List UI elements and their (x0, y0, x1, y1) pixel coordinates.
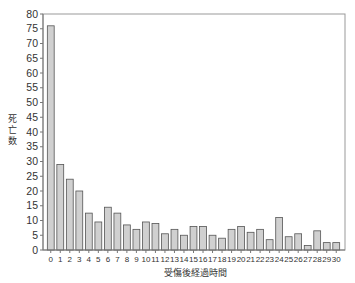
bar (257, 229, 264, 250)
bar (181, 235, 188, 250)
y-tick-label: 25 (26, 170, 38, 182)
y-tick-label: 75 (26, 22, 38, 34)
x-tick-label: 27 (303, 255, 312, 264)
x-tick-label: 12 (160, 255, 169, 264)
bar (57, 164, 64, 250)
y-tick-label: 15 (26, 199, 38, 211)
svg-text:数: 数 (8, 135, 17, 146)
bar (190, 226, 197, 250)
y-tick-label: 60 (26, 67, 38, 79)
y-tick-label: 80 (26, 8, 38, 20)
y-tick-label: 20 (26, 185, 38, 197)
x-tick-label: 30 (332, 255, 341, 264)
bar (209, 235, 216, 250)
x-tick-label: 19 (227, 255, 236, 264)
y-tick-label: 55 (26, 81, 38, 93)
x-tick-label: 21 (246, 255, 255, 264)
y-tick-label: 45 (26, 111, 38, 123)
svg-text:亡: 亡 (8, 124, 17, 135)
y-tick-label: 35 (26, 140, 38, 152)
x-tick-label: 7 (115, 255, 120, 264)
bar (171, 229, 178, 250)
bar (304, 246, 311, 250)
x-tick-label: 1 (58, 255, 63, 264)
x-tick-label: 14 (180, 255, 189, 264)
x-tick-label: 8 (125, 255, 130, 264)
bar (276, 218, 283, 250)
x-axis-title: 受傷後経過時間 (164, 267, 227, 278)
x-tick-label: 28 (313, 255, 322, 264)
bar (123, 225, 130, 250)
bar (200, 226, 207, 250)
x-tick-label: 17 (208, 255, 217, 264)
bar (314, 231, 321, 250)
bar (66, 179, 73, 250)
x-tick-label: 11 (151, 255, 160, 264)
x-tick-label: 4 (87, 255, 92, 264)
x-tick-label: 3 (77, 255, 82, 264)
x-tick-label: 20 (237, 255, 246, 264)
x-axis: 0123456789101112131415161718192021222324… (43, 250, 345, 264)
bar (285, 237, 292, 250)
x-tick-label: 25 (284, 255, 293, 264)
bar (95, 222, 102, 250)
bar (76, 191, 83, 250)
y-tick-label: 10 (26, 214, 38, 226)
bar (47, 26, 54, 250)
bar (323, 243, 330, 250)
x-tick-label: 15 (189, 255, 198, 264)
y-tick-label: 5 (32, 229, 38, 241)
bar-chart: 05101520253035404550556065707580 0123456… (0, 0, 355, 283)
bars (47, 26, 339, 250)
bar (333, 243, 340, 250)
bar (85, 213, 92, 250)
bar (152, 223, 159, 250)
y-tick-label: 70 (26, 37, 38, 49)
x-tick-label: 10 (141, 255, 150, 264)
bar (142, 222, 149, 250)
x-tick-label: 6 (106, 255, 111, 264)
x-tick-label: 0 (49, 255, 54, 264)
bar (133, 229, 140, 250)
x-tick-label: 5 (96, 255, 101, 264)
x-tick-label: 26 (294, 255, 303, 264)
y-axis: 05101520253035404550556065707580 (26, 8, 43, 256)
x-tick-label: 29 (322, 255, 331, 264)
x-tick-label: 24 (275, 255, 284, 264)
bar (295, 234, 302, 250)
y-tick-label: 0 (32, 244, 38, 256)
x-tick-label: 13 (170, 255, 179, 264)
x-tick-label: 22 (256, 255, 265, 264)
y-tick-label: 40 (26, 126, 38, 138)
bar (266, 240, 273, 250)
bar (238, 226, 245, 250)
bar (228, 229, 235, 250)
y-tick-label: 30 (26, 155, 38, 167)
x-tick-label: 23 (265, 255, 274, 264)
bar (104, 207, 111, 250)
bar (247, 232, 254, 250)
y-axis-title: 死亡数 (8, 114, 17, 146)
x-tick-label: 2 (68, 255, 73, 264)
bar (162, 234, 169, 250)
svg-text:死: 死 (8, 114, 17, 124)
y-tick-label: 65 (26, 52, 38, 64)
y-tick-label: 50 (26, 96, 38, 108)
x-tick-label: 9 (134, 255, 139, 264)
bar (219, 238, 226, 250)
x-tick-label: 16 (199, 255, 208, 264)
bar (114, 213, 121, 250)
x-tick-label: 18 (218, 255, 227, 264)
